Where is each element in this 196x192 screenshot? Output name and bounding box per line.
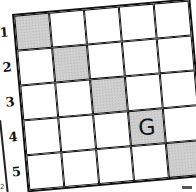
grid-cell-r5-c5[interactable] <box>166 140 196 178</box>
grid-cell-r4-c4[interactable]: G <box>128 108 166 146</box>
grid-cell-r3-c1[interactable] <box>20 83 58 121</box>
grid-cell-r4-c2[interactable] <box>58 114 96 152</box>
puzzle-grid: G <box>12 0 196 192</box>
row-label-4: 4 <box>7 119 19 155</box>
grid-cell-r5-c1[interactable] <box>26 152 64 190</box>
page-number: 2 <box>0 183 4 191</box>
grid-cell-r1-c1[interactable] <box>14 13 52 51</box>
grid-cell-r5-c3[interactable] <box>96 146 134 184</box>
grid-cell-r4-c3[interactable] <box>93 111 131 149</box>
grid-cell-r1-c2[interactable] <box>49 10 87 48</box>
grid-cell-r2-c2[interactable] <box>52 45 90 83</box>
row-label-1: 1 <box>0 14 10 50</box>
grid-cell-r5-c4[interactable] <box>131 143 169 181</box>
grid-cell-r1-c4[interactable] <box>119 4 157 42</box>
row-label-5: 5 <box>10 154 22 190</box>
grid-cell-r2-c3[interactable] <box>87 42 125 80</box>
grid-cell-r2-c4[interactable] <box>122 38 160 76</box>
grid-cell-r3-c4[interactable] <box>125 73 163 111</box>
grid-cell-r3-c3[interactable] <box>90 76 128 114</box>
grid-cell-r2-c5[interactable] <box>157 35 195 73</box>
grid-cell-r3-c5[interactable] <box>160 70 196 108</box>
row-label-2: 2 <box>1 49 13 85</box>
scan-mark <box>182 186 192 189</box>
grid-cell-r1-c3[interactable] <box>84 7 122 45</box>
grid-cell-r2-c1[interactable] <box>17 48 55 86</box>
grid-cell-r1-c5[interactable] <box>154 1 192 39</box>
grid-cell-r3-c2[interactable] <box>55 79 93 117</box>
grid-cell-r5-c2[interactable] <box>61 149 99 187</box>
grid-cell-r4-c5[interactable] <box>163 105 196 143</box>
row-label-3: 3 <box>4 84 16 120</box>
puzzle-grid-container: 1 2 3 4 5 G <box>12 0 196 192</box>
grid-cell-r4-c1[interactable] <box>23 117 61 155</box>
